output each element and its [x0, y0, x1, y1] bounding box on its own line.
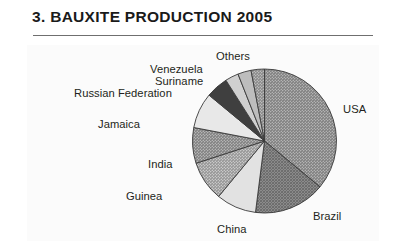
pie-label-russian-federation: Russian Federation — [74, 87, 172, 100]
pie-label-others: Others — [216, 50, 250, 63]
title-block: 3. BAUXITE PRODUCTION 2005 — [32, 7, 392, 26]
pie-label-usa: USA — [343, 103, 366, 116]
pie-label-brazil: Brazil — [313, 210, 341, 223]
pie-label-india: India — [148, 158, 173, 171]
pie-label-china: China — [217, 223, 246, 236]
pie-label-guinea: Guinea — [126, 190, 162, 203]
page-title: 3. BAUXITE PRODUCTION 2005 — [32, 7, 392, 26]
page-root: 3. BAUXITE PRODUCTION 2005 Others Venezu… — [0, 0, 407, 247]
title-divider — [33, 35, 373, 36]
pie-label-jamaica: Jamaica — [98, 118, 140, 131]
